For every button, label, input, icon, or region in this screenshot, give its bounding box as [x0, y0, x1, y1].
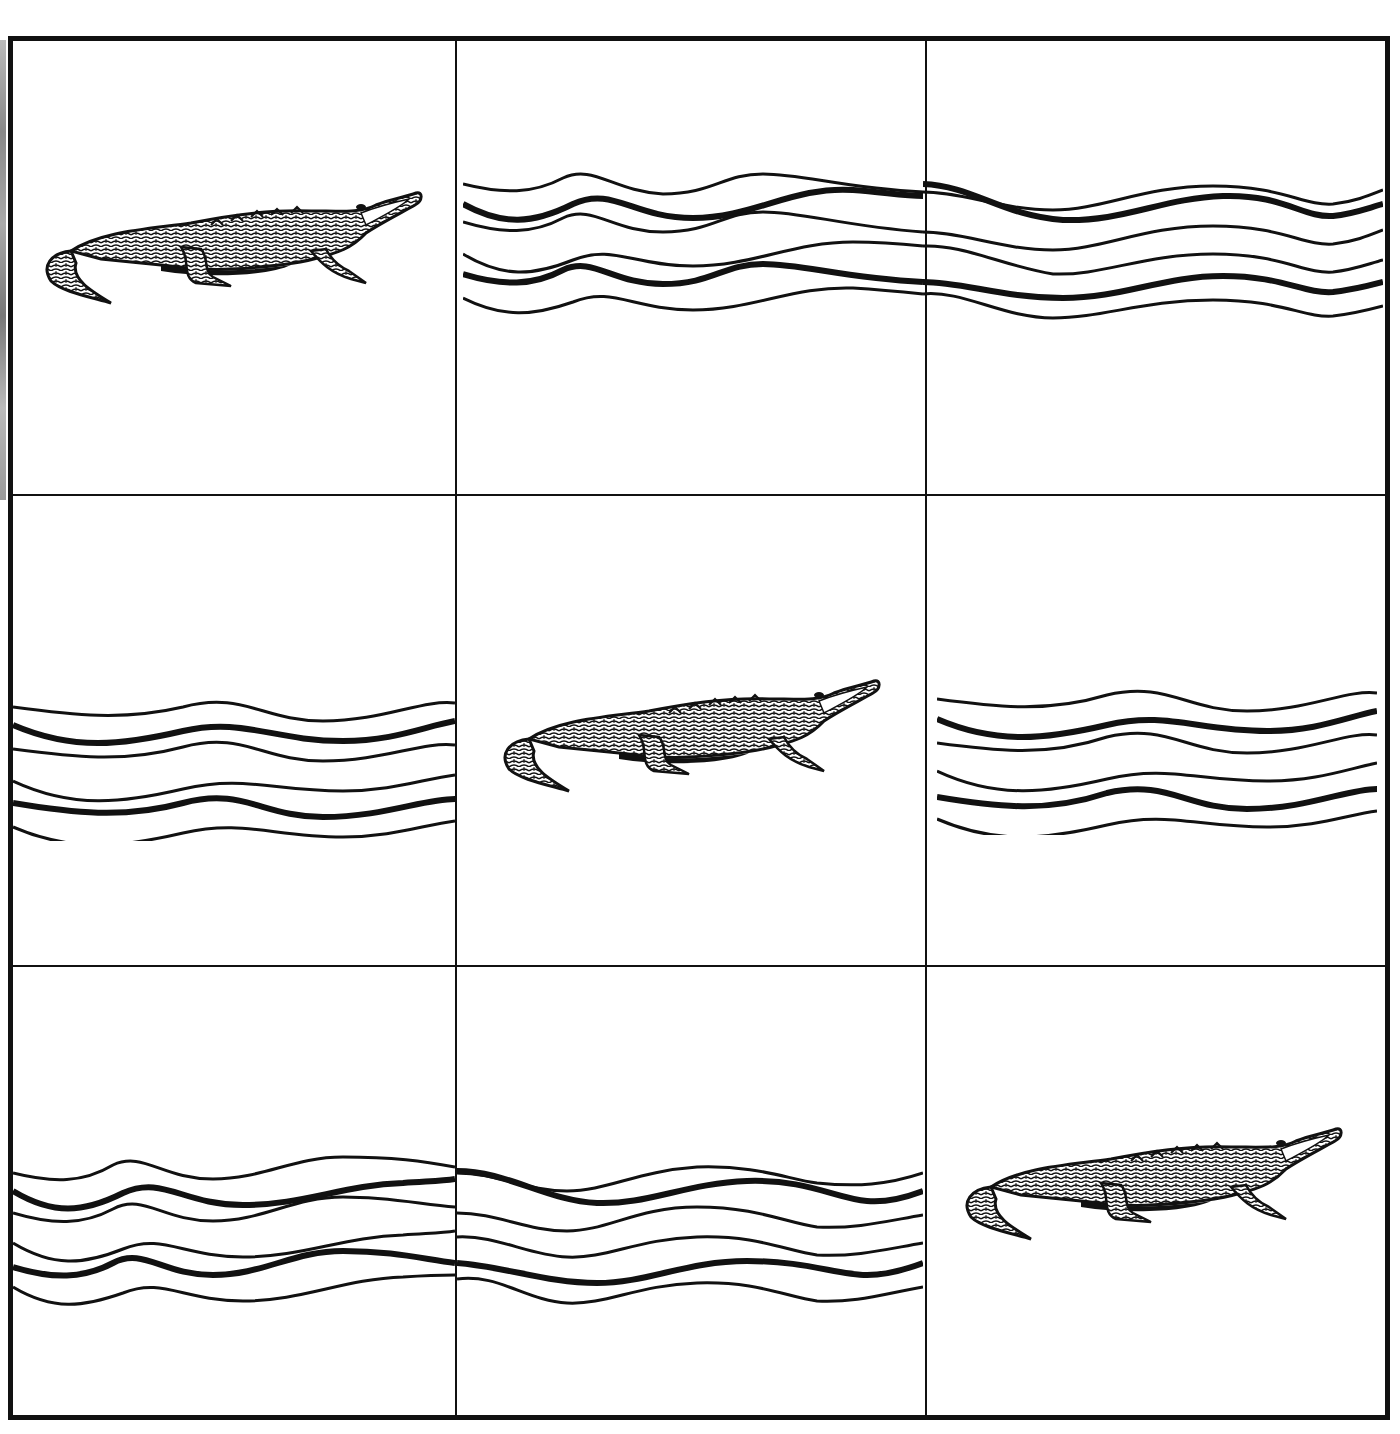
alligator-icon [489, 679, 889, 799]
water-waves-icon [937, 675, 1377, 835]
water-waves-icon [13, 1151, 455, 1311]
cell-r3-c2[interactable] [457, 1151, 923, 1311]
cell-r3-c3[interactable] [951, 1127, 1351, 1247]
grid-divider-horizontal-1 [13, 494, 1385, 496]
water-waves-icon [463, 166, 923, 326]
water-waves-icon [13, 681, 455, 841]
cell-r2-c1[interactable] [13, 681, 455, 841]
grid-divider-horizontal-2 [13, 965, 1385, 967]
cell-r1-c3[interactable] [923, 166, 1383, 326]
alligator-icon [951, 1127, 1351, 1247]
cell-r2-c3[interactable] [937, 675, 1377, 835]
page-edge-shadow [0, 40, 6, 500]
cell-r1-c1[interactable] [31, 191, 431, 311]
cell-r3-c1[interactable] [13, 1151, 455, 1311]
water-waves-icon [457, 1151, 923, 1311]
puzzle-board [8, 36, 1390, 1420]
cell-r1-c2[interactable] [463, 166, 923, 326]
cell-r2-c2[interactable] [489, 679, 889, 799]
water-waves-icon [923, 166, 1383, 326]
alligator-icon [31, 191, 431, 311]
